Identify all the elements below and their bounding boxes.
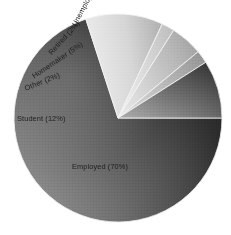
pie-label-student: Student (12%) (17, 115, 66, 122)
pie-label-employed: Employed (70%) (72, 163, 128, 170)
pie-chart-container: Employed (70%)Student (12%)Other (2%)Hom… (0, 0, 231, 235)
